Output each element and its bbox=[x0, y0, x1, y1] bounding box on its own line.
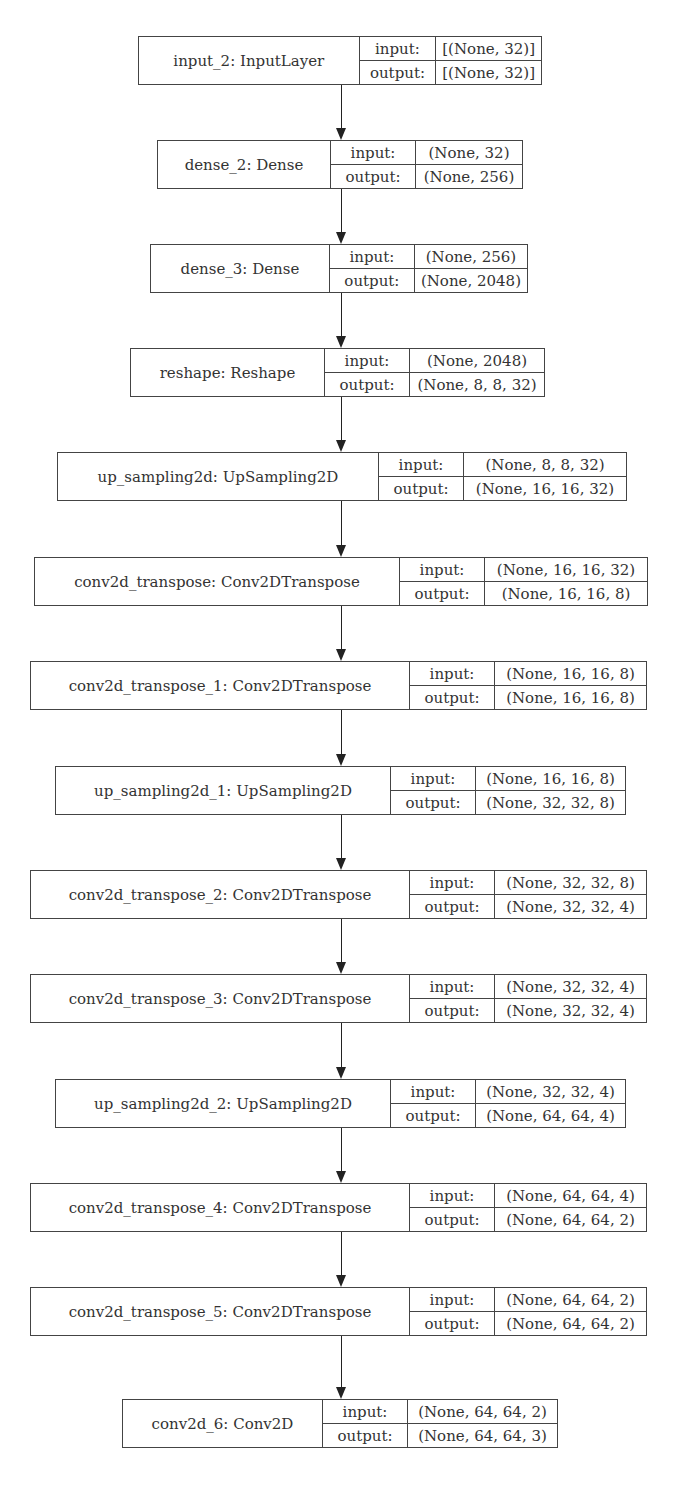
edge-line bbox=[341, 919, 342, 963]
io-shapes: (None, 32)(None, 256) bbox=[415, 141, 522, 188]
layer-node: dense_3: Denseinput:output:(None, 256)(N… bbox=[150, 244, 528, 293]
edge-line bbox=[341, 710, 342, 755]
layer-name: conv2d_transpose_2: Conv2DTranspose bbox=[31, 871, 409, 918]
layer-node: input_2: InputLayerinput:output:[(None, … bbox=[138, 36, 542, 85]
input-label: input: bbox=[410, 1288, 494, 1311]
io-labels: input:output: bbox=[330, 141, 415, 188]
output-label: output: bbox=[410, 685, 494, 709]
layer-name: up_sampling2d_2: UpSampling2D bbox=[56, 1080, 390, 1127]
layer-name: conv2d_transpose_1: Conv2DTranspose bbox=[31, 662, 409, 709]
edge-line bbox=[341, 397, 342, 441]
edge-line bbox=[341, 85, 342, 129]
output-shape: (None, 2048) bbox=[415, 268, 527, 292]
arrow-down-icon bbox=[336, 440, 346, 452]
layer-name: conv2d_transpose: Conv2DTranspose bbox=[35, 558, 399, 605]
io-labels: input:output: bbox=[329, 245, 414, 292]
input-shape: (None, 2048) bbox=[410, 349, 544, 372]
output-label: output: bbox=[325, 372, 409, 396]
layer-name: conv2d_transpose_5: Conv2DTranspose bbox=[31, 1288, 409, 1335]
input-label: input: bbox=[325, 349, 409, 372]
layer-name: conv2d_6: Conv2D bbox=[123, 1400, 322, 1447]
io-shapes: (None, 256)(None, 2048) bbox=[414, 245, 527, 292]
io-labels: input:output: bbox=[378, 453, 463, 500]
input-label: input: bbox=[400, 558, 484, 581]
arrow-down-icon bbox=[336, 545, 346, 557]
io-shapes: (None, 64, 64, 2)(None, 64, 64, 2) bbox=[494, 1288, 646, 1335]
output-label: output: bbox=[360, 60, 436, 84]
io-labels: input:output: bbox=[409, 662, 494, 709]
output-shape: (None, 8, 8, 32) bbox=[410, 372, 544, 396]
io-labels: input:output: bbox=[324, 349, 409, 396]
edge-line bbox=[341, 815, 342, 859]
edge-line bbox=[341, 1023, 342, 1068]
io-shapes: (None, 16, 16, 8)(None, 32, 32, 8) bbox=[475, 767, 625, 814]
input-label: input: bbox=[391, 1080, 475, 1103]
input-label: input: bbox=[410, 871, 494, 894]
layer-name: input_2: InputLayer bbox=[139, 37, 359, 84]
input-label: input: bbox=[391, 767, 475, 790]
io-labels: input:output: bbox=[409, 1184, 494, 1231]
output-label: output: bbox=[323, 1423, 407, 1447]
edge-line bbox=[341, 501, 342, 546]
arrow-down-icon bbox=[336, 649, 346, 661]
output-label: output: bbox=[391, 790, 475, 814]
input-shape: (None, 64, 64, 2) bbox=[408, 1400, 557, 1423]
output-label: output: bbox=[400, 581, 484, 605]
io-shapes: [(None, 32)][(None, 32)] bbox=[435, 37, 541, 84]
edge-line bbox=[341, 606, 342, 650]
layer-name: dense_2: Dense bbox=[158, 141, 330, 188]
layer-name: reshape: Reshape bbox=[131, 349, 324, 396]
input-shape: (None, 16, 16, 8) bbox=[495, 662, 646, 685]
output-label: output: bbox=[410, 1311, 494, 1335]
io-labels: input:output: bbox=[390, 1080, 475, 1127]
layer-name: up_sampling2d: UpSampling2D bbox=[58, 453, 378, 500]
input-shape: (None, 32, 32, 4) bbox=[476, 1080, 625, 1103]
edge-line bbox=[341, 293, 342, 337]
input-label: input: bbox=[330, 245, 414, 268]
layer-node: reshape: Reshapeinput:output:(None, 2048… bbox=[130, 348, 545, 397]
layer-name: conv2d_transpose_3: Conv2DTranspose bbox=[31, 975, 409, 1022]
arrow-down-icon bbox=[336, 1275, 346, 1287]
input-shape: (None, 8, 8, 32) bbox=[464, 453, 626, 476]
output-shape: (None, 16, 16, 8) bbox=[495, 685, 646, 709]
input-shape: [(None, 32)] bbox=[436, 37, 541, 60]
layer-node: conv2d_transpose_2: Conv2DTransposeinput… bbox=[30, 870, 647, 919]
io-labels: input:output: bbox=[399, 558, 484, 605]
arrow-down-icon bbox=[336, 1171, 346, 1183]
output-shape: (None, 64, 64, 4) bbox=[476, 1103, 625, 1127]
layer-node: up_sampling2d_2: UpSampling2Dinput:outpu… bbox=[55, 1079, 626, 1128]
output-label: output: bbox=[391, 1103, 475, 1127]
io-shapes: (None, 32, 32, 4)(None, 32, 32, 4) bbox=[494, 975, 646, 1022]
arrow-down-icon bbox=[336, 754, 346, 766]
arrow-down-icon bbox=[336, 1067, 346, 1079]
layer-node: conv2d_transpose: Conv2DTransposeinput:o… bbox=[34, 557, 648, 606]
output-label: output: bbox=[410, 1207, 494, 1231]
input-label: input: bbox=[360, 37, 436, 60]
output-shape: (None, 64, 64, 2) bbox=[495, 1207, 646, 1231]
io-shapes: (None, 64, 64, 2)(None, 64, 64, 3) bbox=[407, 1400, 557, 1447]
output-shape: (None, 16, 16, 32) bbox=[464, 476, 626, 500]
arrow-down-icon bbox=[336, 232, 346, 244]
io-shapes: (None, 2048)(None, 8, 8, 32) bbox=[409, 349, 544, 396]
input-shape: (None, 16, 16, 8) bbox=[476, 767, 625, 790]
layer-name: dense_3: Dense bbox=[151, 245, 329, 292]
layer-node: dense_2: Denseinput:output:(None, 32)(No… bbox=[157, 140, 523, 189]
input-label: input: bbox=[379, 453, 463, 476]
input-label: input: bbox=[323, 1400, 407, 1423]
arrow-down-icon bbox=[336, 962, 346, 974]
arrow-down-icon bbox=[336, 336, 346, 348]
input-shape: (None, 32, 32, 4) bbox=[495, 975, 646, 998]
io-shapes: (None, 8, 8, 32)(None, 16, 16, 32) bbox=[463, 453, 626, 500]
input-label: input: bbox=[410, 975, 494, 998]
layer-node: conv2d_transpose_5: Conv2DTransposeinput… bbox=[30, 1287, 647, 1336]
output-label: output: bbox=[379, 476, 463, 500]
edge-line bbox=[341, 189, 342, 233]
io-labels: input:output: bbox=[390, 767, 475, 814]
layer-name: up_sampling2d_1: UpSampling2D bbox=[56, 767, 390, 814]
edge-line bbox=[341, 1128, 342, 1172]
layer-node: up_sampling2d_1: UpSampling2Dinput:outpu… bbox=[55, 766, 626, 815]
layer-node: conv2d_transpose_3: Conv2DTransposeinput… bbox=[30, 974, 647, 1023]
output-shape: (None, 32, 32, 8) bbox=[476, 790, 625, 814]
input-label: input: bbox=[331, 141, 415, 164]
layer-node: conv2d_transpose_1: Conv2DTransposeinput… bbox=[30, 661, 647, 710]
